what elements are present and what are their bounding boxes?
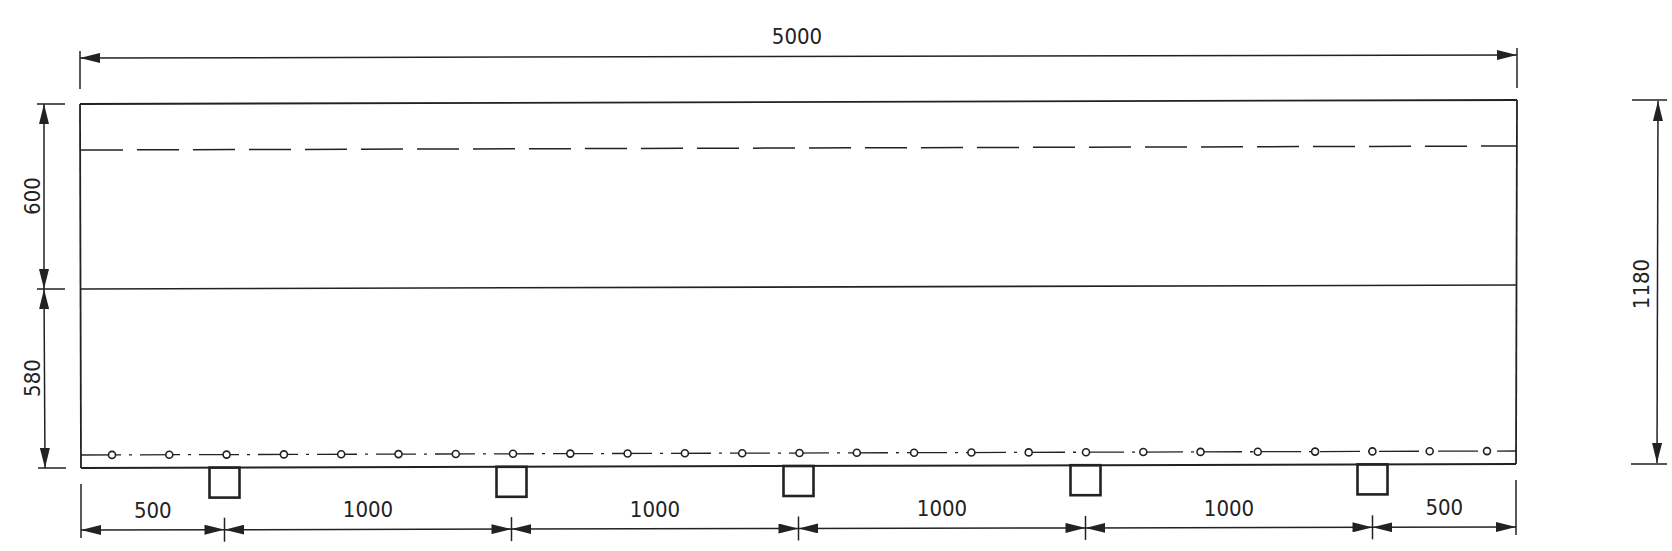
support-block [210,468,240,498]
rebar-circle-icon [395,451,402,458]
rebar-circle-icon [1426,448,1433,455]
rebar-circle-icon [567,450,574,457]
rebar-circle-icon [911,449,918,456]
dimension-line-segment [1086,527,1373,528]
support-block [784,466,814,496]
dimension-line-1180 [1657,101,1658,463]
rebar-circle-icon [510,450,517,457]
rebar-circle-icon [338,451,345,458]
support-block [1358,464,1388,494]
support-block [1071,465,1101,495]
dimension-label-600: 600 [20,177,45,215]
rebar-circle-icon [1025,449,1032,456]
rebar-circle-icon [1254,448,1261,455]
dimension-line-segment [225,529,512,530]
beam-left-edge [80,104,81,468]
beam-top-edge [80,100,1517,104]
rebar-circle-icon [624,450,631,457]
rebar-circle-icon [280,451,287,458]
rebar-circle-icon [968,449,975,456]
dimension-label-segment: 1000 [1204,496,1254,521]
rebar-circle-icon [1484,448,1491,455]
rebar-circle-icon [1197,448,1204,455]
rebar-circle-icon [1140,449,1147,456]
rebar-circle-icon [1369,448,1376,455]
rebar-circle-icon [109,451,116,458]
mid-division-line [81,285,1516,289]
dimension-label-segment: 500 [134,498,172,523]
support-block [497,467,527,497]
dimension-label-overall-width: 5000 [772,24,822,49]
left-height-dimensions: 600 580 [20,104,66,468]
overall-width-dimension: 5000 [80,24,1517,89]
dimension-line-5000 [80,55,1517,58]
dimension-label-segment: 1000 [630,497,680,522]
dimension-label-580: 580 [20,359,45,397]
dimension-label-segment: 1000 [917,496,967,521]
bottom-chain-dimensions: 5001000100010001000500 [81,480,1516,542]
dimension-line-segment [512,529,799,530]
rebar-circle-icon [739,450,746,457]
rebar-circle-icon [681,450,688,457]
right-height-dimension: 1180 [1629,100,1667,464]
rebar-circle-icon [223,451,230,458]
rebar-circle-icon [166,451,173,458]
rebar-points [109,448,1491,459]
hidden-line-dashed [81,146,1516,150]
rebar-circle-icon [1083,449,1090,456]
dimension-label-segment: 1000 [343,497,393,522]
rebar-circle-icon [452,451,459,458]
dimension-label-segment: 500 [1425,495,1463,520]
rebar-circle-icon [1312,448,1319,455]
rebar-circle-icon [853,449,860,456]
supports [210,464,1388,497]
dimension-line-segment [799,528,1086,529]
beam-body [80,100,1517,468]
rebar-circle-icon [796,450,803,457]
beam-right-edge [1516,100,1517,464]
beam-elevation-drawing: 5000 600 580 1180 [0,0,1672,551]
dimension-label-1180: 1180 [1629,259,1654,309]
